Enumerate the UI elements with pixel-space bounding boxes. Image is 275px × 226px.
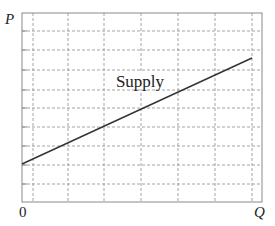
axis-ticks	[22, 31, 27, 184]
origin-label: 0	[19, 204, 27, 220]
chart-canvas: Supply P 0 Q	[0, 0, 275, 226]
vertical-gridlines	[33, 13, 252, 202]
horizontal-gridlines	[22, 31, 262, 184]
x-axis-label: Q	[254, 204, 265, 220]
supply-label: Supply	[116, 72, 165, 91]
plot-frame	[22, 13, 262, 202]
supply-chart: Supply P 0 Q	[0, 0, 275, 226]
y-axis-label: P	[4, 11, 14, 27]
